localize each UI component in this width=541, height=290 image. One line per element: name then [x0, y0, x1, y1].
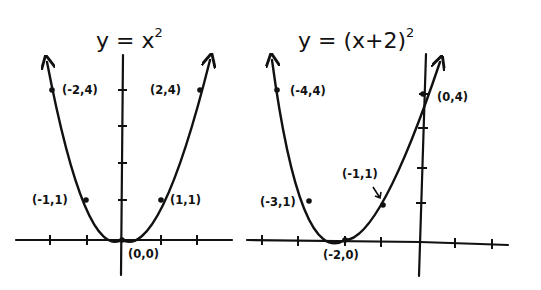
- point-1-1: [158, 197, 164, 203]
- label-0-4: (0,4): [437, 90, 468, 104]
- label-1-1: (1,1): [170, 193, 201, 207]
- point-neg3-1: [306, 198, 312, 204]
- point-neg2-0: [342, 237, 348, 243]
- label-neg2-4: (-2,4): [62, 83, 98, 97]
- label-2-4: (2,4): [150, 83, 181, 97]
- label-0-0: (0,0): [128, 247, 159, 261]
- graph-y-equals-x-plus-2-squared: y = (x+2)2 (-4,4) (0,4): [247, 25, 508, 276]
- graphs-canvas: y = x2 (-2,4) (2,4) (-1,1) (1,1): [0, 0, 541, 290]
- label-neg3-1: (-3,1): [260, 195, 296, 209]
- arrow-pointer-icon: [373, 187, 381, 198]
- graph-title: y = (x+2)2: [298, 25, 414, 53]
- x-axis: [247, 240, 508, 245]
- point-neg1-1: [83, 197, 89, 203]
- label-neg4-4: (-4,4): [290, 84, 326, 98]
- point-0-0: [119, 237, 125, 243]
- point-neg2-4: [49, 87, 55, 93]
- graph-y-equals-x-squared: y = x2 (-2,4) (2,4) (-1,1) (1,1): [16, 25, 232, 275]
- point-2-4: [197, 87, 203, 93]
- graph-title: y = x2: [96, 25, 163, 53]
- label-neg2-0: (-2,0): [323, 248, 359, 262]
- point-0-4: [420, 91, 426, 97]
- label-neg1-1: (-1,1): [32, 193, 68, 207]
- point-neg1-1: [380, 202, 386, 208]
- point-neg4-4: [274, 87, 280, 93]
- label-neg1-1: (-1,1): [342, 167, 378, 181]
